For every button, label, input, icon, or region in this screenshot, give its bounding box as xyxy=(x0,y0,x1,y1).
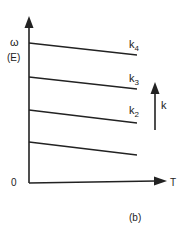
line-k1 xyxy=(29,142,137,155)
y-axis-arrow-icon xyxy=(25,16,34,28)
line-k4 xyxy=(29,43,137,55)
k-arrow-label: k xyxy=(161,99,167,111)
x-axis xyxy=(29,177,167,186)
diagram-canvas: k4 k3 k2 k ω (E) 0 T (b) xyxy=(0,0,186,233)
x-axis-label: T xyxy=(170,177,176,188)
k-direction-arrow xyxy=(151,82,160,130)
y-axis-unit: (E) xyxy=(7,52,20,63)
label-k2: k2 xyxy=(129,104,140,119)
label-k3: k3 xyxy=(129,72,140,87)
line-k2 xyxy=(29,110,137,123)
line-k3 xyxy=(29,77,137,89)
x-axis-arrow-icon xyxy=(154,177,167,186)
y-axis xyxy=(25,16,34,183)
label-k4: k4 xyxy=(129,38,140,53)
y-axis-symbol: ω xyxy=(10,36,19,48)
diagram-svg: k4 k3 k2 k ω (E) 0 T (b) xyxy=(0,0,186,233)
origin-label: 0 xyxy=(11,177,17,188)
figure-caption: (b) xyxy=(129,212,141,223)
up-arrow-icon xyxy=(151,82,160,94)
